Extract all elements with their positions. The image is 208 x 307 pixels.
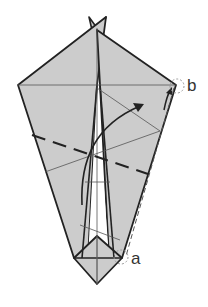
label-a: a [131,249,141,268]
origami-diagram: b a [0,0,208,307]
label-b: b [187,76,196,95]
right-panel [97,30,176,258]
